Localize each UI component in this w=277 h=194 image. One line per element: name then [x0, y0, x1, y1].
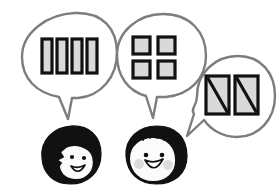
face-right-eye-right [160, 153, 165, 158]
speech-bubble-middle [117, 14, 206, 118]
square-top-left [133, 37, 150, 54]
square-top-right [158, 37, 175, 54]
bubble-left-outline [22, 13, 117, 119]
square-bottom-right [158, 61, 175, 78]
face-left-eye-right [82, 156, 86, 160]
face-left [42, 126, 101, 184]
diagonal-block-1 [206, 76, 229, 114]
face-left-skin [57, 145, 94, 180]
bar-3 [72, 39, 82, 73]
face-right-blush-left [134, 159, 144, 169]
face-right-eye-left [144, 153, 149, 158]
face-left-eye-left [70, 155, 74, 159]
bar-2 [57, 39, 67, 73]
bar-1 [42, 39, 52, 73]
face-right-blush-right [163, 160, 173, 170]
face-right-skin [129, 137, 176, 182]
face-right [126, 126, 187, 184]
square-bottom-left [133, 61, 150, 78]
illustration-canvas: Three speech bubbles with block diagrams… [0, 0, 277, 194]
diagonal-block-2 [235, 76, 258, 114]
bar-4 [87, 39, 97, 73]
speech-bubble-left [22, 13, 117, 119]
